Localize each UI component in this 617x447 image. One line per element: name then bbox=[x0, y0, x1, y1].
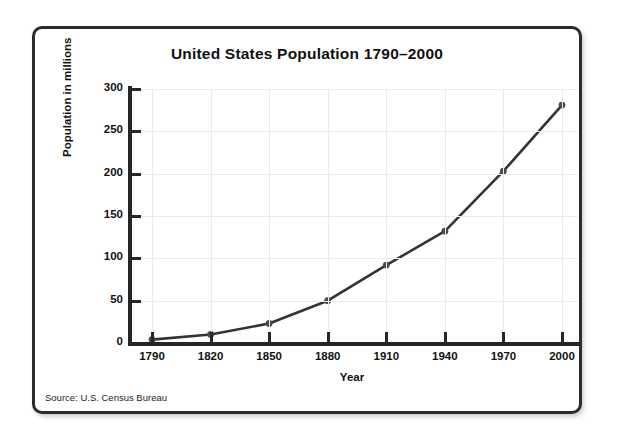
x-axis-tick bbox=[268, 332, 271, 343]
chart-card: United States Population 1790–2000 Popul… bbox=[32, 26, 582, 414]
gridline-vertical bbox=[152, 89, 153, 343]
x-axis-tick-label: 1880 bbox=[298, 350, 358, 362]
x-axis-tick-label: 1850 bbox=[239, 350, 299, 362]
y-axis-title: Population in millions bbox=[61, 38, 73, 157]
gridline-vertical bbox=[386, 89, 387, 343]
gridline-vertical bbox=[269, 89, 270, 343]
x-axis-title: Year bbox=[35, 371, 579, 383]
x-axis-tick-label: 1940 bbox=[415, 350, 475, 362]
y-axis-tick bbox=[132, 257, 141, 260]
gridline-horizontal bbox=[131, 216, 578, 217]
y-axis-tick bbox=[132, 300, 141, 303]
source-note: Source: U.S. Census Bureau bbox=[45, 392, 167, 403]
x-axis-tick-label: 1970 bbox=[473, 350, 533, 362]
y-axis-tick bbox=[132, 215, 141, 218]
gridline-vertical bbox=[562, 89, 563, 343]
plot-area bbox=[131, 89, 578, 343]
gridline-vertical bbox=[328, 89, 329, 343]
y-axis-tick-label: 250 bbox=[75, 123, 123, 135]
y-axis-tick-label: 300 bbox=[75, 81, 123, 93]
y-axis-tick-label: 150 bbox=[75, 208, 123, 220]
gridline-horizontal bbox=[131, 89, 578, 90]
x-axis-tick-label: 1820 bbox=[181, 350, 241, 362]
gridline-horizontal bbox=[131, 131, 578, 132]
chart-figure: United States Population 1790–2000 Popul… bbox=[0, 0, 617, 447]
x-axis-tick bbox=[561, 332, 564, 343]
x-axis-tick bbox=[210, 332, 213, 343]
x-axis-tick bbox=[151, 332, 154, 343]
y-axis-tick-label: 0 bbox=[75, 335, 123, 347]
y-axis-tick-label: 100 bbox=[75, 250, 123, 262]
x-axis-tick bbox=[385, 332, 388, 343]
gridline-vertical bbox=[445, 89, 446, 343]
x-axis-tick-label: 2000 bbox=[532, 350, 592, 362]
x-axis-spine bbox=[128, 342, 580, 346]
y-axis-tick bbox=[132, 130, 141, 133]
x-axis-tick bbox=[502, 332, 505, 343]
x-axis-tick bbox=[444, 332, 447, 343]
y-axis-tick bbox=[132, 342, 141, 345]
gridline-vertical bbox=[211, 89, 212, 343]
x-axis-tick-label: 1910 bbox=[356, 350, 416, 362]
x-axis-tick-label: 1790 bbox=[122, 350, 182, 362]
gridline-horizontal bbox=[131, 301, 578, 302]
gridline-horizontal bbox=[131, 174, 578, 175]
y-axis-tick-label: 50 bbox=[75, 293, 123, 305]
chart-title: United States Population 1790–2000 bbox=[35, 45, 579, 63]
y-axis-tick-label: 200 bbox=[75, 166, 123, 178]
gridline-vertical bbox=[503, 89, 504, 343]
y-axis-tick bbox=[132, 88, 141, 91]
series-line bbox=[152, 105, 562, 340]
gridline-horizontal bbox=[131, 258, 578, 259]
x-axis-tick bbox=[327, 332, 330, 343]
y-axis-tick bbox=[132, 173, 141, 176]
